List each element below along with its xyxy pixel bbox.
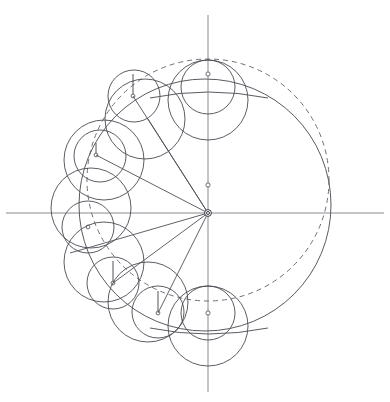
outer-circle-pos-2 bbox=[64, 120, 144, 200]
origin-inner-dot bbox=[207, 212, 210, 215]
outer-circle-pos-4 bbox=[64, 222, 144, 302]
diagram-canvas bbox=[0, 0, 390, 402]
guide-curves-group bbox=[79, 59, 331, 331]
spoke-lower-2 bbox=[158, 213, 208, 313]
geometric-construction-figure bbox=[0, 0, 390, 402]
center-dot-pos-6 bbox=[206, 311, 210, 315]
spoke-left-horizontal bbox=[70, 213, 208, 253]
solid-guide-circle bbox=[79, 79, 331, 331]
rolling-circle-pos-2 bbox=[64, 120, 144, 200]
spoke-lower-1 bbox=[113, 213, 208, 283]
spoke-upper-2 bbox=[96, 155, 208, 213]
axes-group bbox=[6, 15, 384, 392]
axis-marker-dot bbox=[206, 183, 210, 187]
inner-circle-pos-2 bbox=[74, 130, 126, 182]
spoke-tangent-upper bbox=[148, 119, 208, 213]
center-dot-pos-0 bbox=[206, 72, 210, 76]
